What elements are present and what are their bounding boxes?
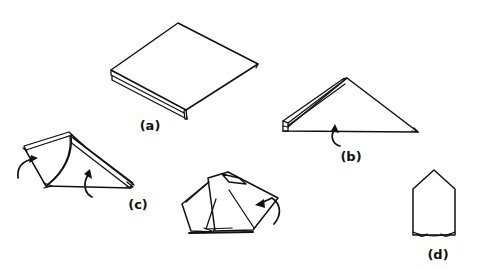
panel-a-right-edge-thickness bbox=[184, 110, 187, 119]
panel-a-illustration bbox=[111, 23, 258, 119]
panel-mid-base-line bbox=[189, 232, 253, 233]
panel-mid-illustration bbox=[182, 172, 279, 233]
panel-d-label: (d) bbox=[427, 247, 448, 262]
folding-diagram: (a) (b) bbox=[0, 0, 477, 270]
figure-canvas: (a) (b) bbox=[0, 0, 477, 270]
panel-c-illustration bbox=[18, 132, 134, 197]
panel-c-label: (c) bbox=[128, 197, 148, 212]
panel-a-label: (a) bbox=[140, 118, 161, 133]
panel-d-illustration bbox=[413, 170, 455, 236]
panel-a-top-face bbox=[111, 23, 258, 110]
panel-d-body bbox=[413, 170, 455, 235]
panel-b-illustration bbox=[283, 78, 418, 146]
panel-b-label: (b) bbox=[340, 149, 361, 164]
panel-b-triangle-face bbox=[283, 78, 418, 132]
